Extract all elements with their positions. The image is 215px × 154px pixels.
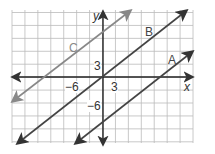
x-axis-label: x <box>184 81 190 93</box>
tick-x-neg6: −6 <box>65 81 79 93</box>
tick-x-3: 3 <box>111 81 118 93</box>
line-c-label: C <box>69 42 78 54</box>
graph-svg <box>0 0 215 154</box>
line-a-label: A <box>168 54 176 66</box>
coordinate-plane: y x −6 3 3 −6 A B C <box>0 0 215 154</box>
line-b-label: B <box>145 26 153 38</box>
tick-y-neg6: −6 <box>87 100 101 112</box>
y-axis-label: y <box>93 10 99 22</box>
tick-y-3: 3 <box>94 60 101 72</box>
